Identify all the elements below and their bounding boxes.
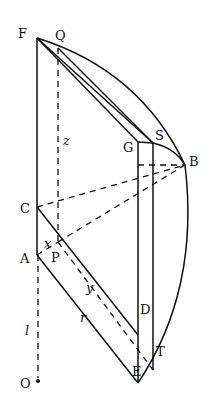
label-P: P bbox=[51, 250, 60, 265]
label-O: O bbox=[20, 376, 31, 391]
edge-PB bbox=[58, 165, 185, 242]
label-C: C bbox=[20, 201, 30, 216]
edge-CD bbox=[37, 207, 138, 335]
label-F: F bbox=[18, 26, 27, 41]
solid-edges bbox=[37, 38, 188, 383]
label-Q: Q bbox=[55, 28, 66, 43]
geometry-diagram: F Q G S B C A P D T E O z x y r l bbox=[0, 0, 215, 415]
edge-AE bbox=[37, 255, 138, 383]
edge-QS bbox=[58, 48, 153, 143]
edge-FG bbox=[37, 38, 138, 142]
label-x: x bbox=[44, 236, 52, 251]
label-B: B bbox=[189, 154, 199, 169]
label-z: z bbox=[62, 133, 70, 148]
label-T: T bbox=[156, 344, 165, 359]
dashed-edges bbox=[37, 48, 185, 378]
label-S: S bbox=[155, 128, 164, 143]
edge-CB bbox=[37, 165, 185, 207]
label-r: r bbox=[80, 310, 87, 325]
label-y: y bbox=[85, 280, 94, 295]
label-l: l bbox=[25, 323, 29, 338]
point-labels: F Q G S B C A P D T E O bbox=[18, 26, 199, 391]
label-E: E bbox=[132, 364, 142, 379]
edge-FS bbox=[37, 38, 153, 143]
edge-GS bbox=[138, 142, 153, 143]
label-D: D bbox=[140, 302, 150, 317]
label-A: A bbox=[19, 251, 30, 266]
label-G: G bbox=[123, 140, 133, 155]
point-O-dot bbox=[36, 379, 40, 383]
